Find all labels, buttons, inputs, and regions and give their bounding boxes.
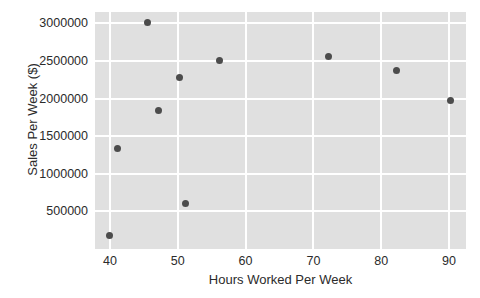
x-tick-label: 50 — [171, 254, 185, 268]
y-axis-tick-labels: 5000001000000150000020000002500000300000… — [0, 12, 88, 249]
data-point — [155, 107, 162, 114]
data-point — [182, 200, 189, 207]
y-tick-label: 1500000 — [39, 129, 88, 143]
data-point — [114, 145, 121, 152]
data-point — [144, 19, 151, 26]
data-point — [216, 57, 223, 64]
gridline-vertical — [380, 12, 382, 249]
y-axis-title: Sales Per Week ($) — [25, 1, 40, 238]
x-tick-label: 80 — [374, 254, 388, 268]
gridline-vertical — [177, 12, 179, 249]
gridline-vertical — [245, 12, 247, 249]
data-point — [176, 74, 183, 81]
scatter-plot-figure: 5000001000000150000020000002500000300000… — [0, 0, 480, 298]
gridline-horizontal — [95, 210, 466, 212]
gridline-vertical — [312, 12, 314, 249]
gridline-horizontal — [95, 98, 466, 100]
y-tick-label: 500000 — [46, 204, 88, 218]
data-point — [106, 232, 113, 239]
y-tick-label: 2000000 — [39, 92, 88, 106]
x-tick-label: 70 — [306, 254, 320, 268]
y-tick-label: 2500000 — [39, 54, 88, 68]
data-point — [447, 97, 454, 104]
y-tick-label: 3000000 — [39, 16, 88, 30]
plot-area — [95, 12, 466, 249]
y-tick-label: 1000000 — [39, 167, 88, 181]
gridline-horizontal — [95, 173, 466, 175]
gridline-vertical — [109, 12, 111, 249]
x-axis-tick-labels: 405060708090 — [95, 254, 466, 272]
data-point — [393, 67, 400, 74]
x-tick-label: 40 — [103, 254, 117, 268]
gridline-horizontal — [95, 135, 466, 137]
gridline-vertical — [448, 12, 450, 249]
x-tick-label: 60 — [239, 254, 253, 268]
gridline-horizontal — [95, 60, 466, 62]
data-point — [325, 53, 332, 60]
x-axis-title: Hours Worked Per Week — [95, 272, 466, 287]
x-tick-label: 90 — [442, 254, 456, 268]
